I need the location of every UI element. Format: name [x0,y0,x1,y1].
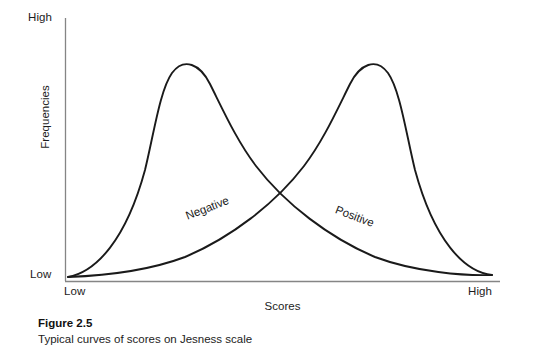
y-axis-tick-low: Low [30,268,51,280]
figure-caption-title: Figure 2.5 [38,316,498,331]
figure-container: High Low Low High Frequencies Scores Neg… [0,0,538,358]
curve-negative [68,64,492,277]
x-axis-tick-low: Low [64,285,85,297]
curve-positive [68,64,492,277]
x-axis-tick-high: High [468,285,492,297]
y-axis-title: Frequencies [39,67,51,167]
figure-caption: Figure 2.5 Typical curves of scores on J… [38,316,498,347]
figure-caption-text: Typical curves of scores on Jesness scal… [38,331,498,347]
y-axis-tick-high: High [28,11,52,23]
x-axis-title: Scores [65,300,500,312]
